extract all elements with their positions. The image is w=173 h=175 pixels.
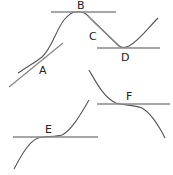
label-b: B <box>77 0 85 12</box>
tangent-line-a <box>9 43 63 87</box>
label-a: A <box>39 64 47 77</box>
label-c: C <box>89 30 97 43</box>
label-f: F <box>126 90 132 103</box>
tangent-diagram: A B C D F E <box>0 0 173 175</box>
label-d: D <box>121 51 129 64</box>
label-e: E <box>45 123 52 136</box>
